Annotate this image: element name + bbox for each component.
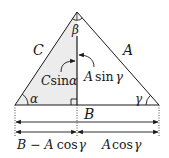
left-seg-fn: cos <box>57 137 78 152</box>
a-sin-fn: sin <box>95 69 113 84</box>
side-c-label: C <box>33 42 44 58</box>
a-sin-gamma-label: Asinγ <box>83 69 124 84</box>
a-sin-arg: γ <box>116 69 124 84</box>
side-a-line <box>77 12 159 105</box>
diagram-canvas: C A B α β γ Csinα Asinγ B − Acosγ Acosγ <box>0 0 169 158</box>
b-minus-a-cos-gamma-label: B − Acosγ <box>16 137 87 152</box>
right-seg-arg: γ <box>134 137 142 152</box>
right-seg-coef: A <box>101 137 111 152</box>
a-sin-coef: A <box>83 69 93 84</box>
angle-alpha-label: α <box>30 92 38 106</box>
right-seg-fn: cos <box>112 137 133 152</box>
gamma-arc <box>146 95 150 105</box>
asin-pointer-arrow <box>79 55 94 67</box>
angle-gamma-label: γ <box>135 92 143 106</box>
c-sin-coef: C <box>41 73 51 88</box>
triangle-diagram: C A B α β γ Csinα Asinγ B − Acosγ Acosγ <box>0 0 169 158</box>
c-sin-fn: sin <box>51 73 69 88</box>
a-cos-gamma-label: Acosγ <box>101 137 142 152</box>
c-sin-arg: α <box>69 73 78 88</box>
side-a-label: A <box>121 42 133 58</box>
side-b-label: B <box>83 106 94 122</box>
angle-beta-label: β <box>71 23 79 37</box>
c-sin-alpha-label: Csinα <box>41 73 78 88</box>
left-seg-arg: γ <box>79 137 87 152</box>
left-seg-prefix: B − A <box>16 137 54 152</box>
